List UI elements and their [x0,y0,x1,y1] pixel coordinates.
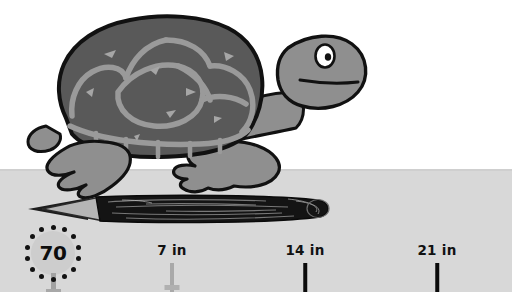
badge-dot [51,277,56,282]
badge-dot [39,227,44,232]
pencil [26,193,338,225]
ruler-tick-foot [165,285,180,290]
ruler-tick-label: 7 in [157,242,187,258]
measurement-scene: 70 7 in14 in21 in [0,0,512,292]
tail-icon [28,126,61,152]
badge-dot [39,274,44,279]
badge-dot [62,274,67,279]
badge-70[interactable]: 70 [21,231,85,291]
badge-dot [25,256,30,261]
badge-dot [25,245,30,250]
badge-dot [62,227,67,232]
badge-circle: 70 [31,231,75,275]
pencil-wood [42,197,104,221]
turtle [0,0,390,200]
head-icon [277,36,365,108]
badge-dot [51,225,56,230]
ruler-tick-mark [435,263,439,292]
badge-value: 70 [40,243,67,263]
ruler-tick-label: 14 in [285,242,324,258]
badge-dot [76,245,81,250]
ruler-tick-label: 21 in [417,242,456,258]
ruler-tick-mark [303,263,307,292]
badge-dot [30,267,35,272]
front-leg-icon [47,141,130,198]
badge-dot [30,234,35,239]
pupil-icon [325,53,331,61]
badge-dot [71,267,76,272]
shell-icon [59,16,262,157]
badge-dot [76,256,81,261]
badge-dot [71,234,76,239]
